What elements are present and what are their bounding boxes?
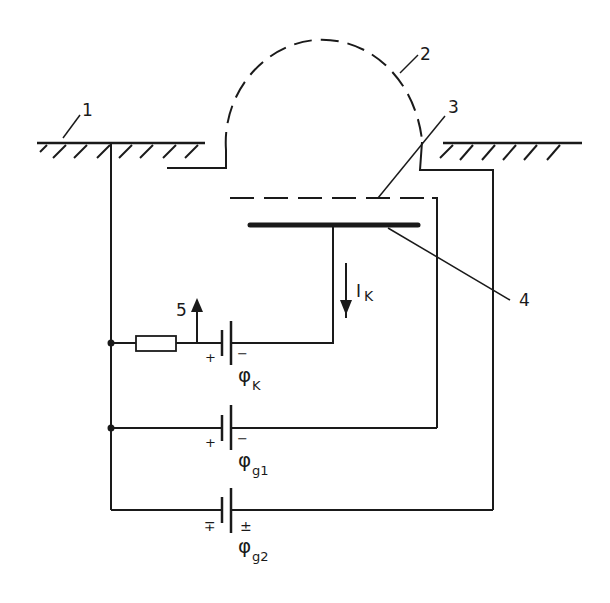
leader-1 bbox=[63, 115, 80, 138]
battery-k-minus: − bbox=[237, 346, 248, 361]
label-3: 3 bbox=[448, 97, 459, 117]
leader-2 bbox=[400, 55, 418, 73]
resistor bbox=[136, 336, 176, 351]
output-arrow-icon bbox=[191, 298, 203, 312]
battery-k-plus: + bbox=[205, 350, 216, 365]
plasma-boundary-arc bbox=[226, 40, 422, 150]
left-step bbox=[167, 150, 226, 168]
collector-wire bbox=[232, 225, 333, 343]
battery-g2-sub: g2 bbox=[252, 549, 269, 564]
leader-4 bbox=[388, 228, 510, 300]
grid-3-wire bbox=[432, 198, 437, 428]
ground-surface-left bbox=[37, 143, 205, 158]
label-2: 2 bbox=[420, 44, 431, 64]
current-label: I bbox=[356, 281, 361, 301]
leader-3 bbox=[378, 116, 445, 198]
battery-k-sub: K bbox=[252, 378, 261, 393]
label-4: 4 bbox=[519, 290, 530, 310]
battery-g2-left-sign: ∓ bbox=[204, 518, 216, 534]
current-arrow-head bbox=[340, 300, 352, 315]
battery-g1-sub: g1 bbox=[252, 463, 269, 478]
battery-g2-symbol: φ bbox=[238, 534, 251, 558]
battery-g1-symbol: φ bbox=[238, 448, 251, 472]
label-5: 5 bbox=[176, 300, 187, 320]
ground-surface-right bbox=[440, 143, 582, 160]
battery-g2-right-sign: ± bbox=[240, 518, 252, 534]
battery-k-symbol: φ bbox=[238, 363, 251, 387]
battery-g1-minus: − bbox=[237, 431, 248, 446]
right-step-wire bbox=[420, 142, 493, 510]
label-1: 1 bbox=[82, 100, 93, 120]
circuit-diagram: 1 2 3 4 5 I K + − φ K + − φ g1 ∓ ± φ g2 bbox=[0, 0, 610, 603]
current-sub: K bbox=[364, 288, 374, 304]
battery-g1-plus: + bbox=[205, 435, 216, 450]
